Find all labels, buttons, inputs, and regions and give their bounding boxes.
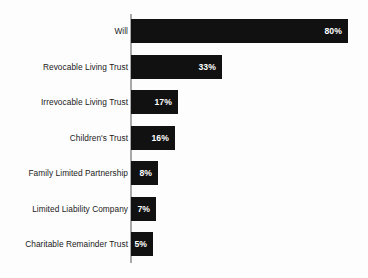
bar-row: Charitable Remainder Trust 5% <box>0 232 368 256</box>
category-label: Revocable Living Trust <box>43 55 128 79</box>
category-label: Limited Liability Company <box>32 197 128 221</box>
bar[interactable]: 8% <box>131 161 158 185</box>
bar[interactable]: 80% <box>131 19 348 43</box>
bar-value-label: 5% <box>134 232 147 256</box>
bar-row: Limited Liability Company 7% <box>0 197 368 221</box>
bar-row: Family Limited Partnership 8% <box>0 161 368 185</box>
bar[interactable]: 16% <box>131 126 175 150</box>
category-label: Family Limited Partnership <box>28 161 128 185</box>
bar-row: Revocable Living Trust 33% <box>0 55 368 79</box>
bar-value-label: 17% <box>154 90 172 114</box>
bar-row: Irrevocable Living Trust 17% <box>0 90 368 114</box>
plot-area: Will 80% Revocable Living Trust 33% Irre… <box>0 14 368 263</box>
bar-chart: Will 80% Revocable Living Trust 33% Irre… <box>0 0 368 278</box>
bar-row: Children's Trust 16% <box>0 126 368 150</box>
category-label: Charitable Remainder Trust <box>25 232 128 256</box>
category-label: Will <box>114 19 128 43</box>
bar[interactable]: 33% <box>131 55 222 79</box>
bar[interactable]: 17% <box>131 90 178 114</box>
bar-value-label: 8% <box>139 161 152 185</box>
bar[interactable]: 5% <box>131 232 153 256</box>
bar-value-label: 80% <box>324 19 342 43</box>
bar[interactable]: 7% <box>131 197 156 221</box>
bar-value-label: 16% <box>151 126 169 150</box>
bar-value-label: 7% <box>137 197 150 221</box>
bar-row: Will 80% <box>0 19 368 43</box>
category-label: Irrevocable Living Trust <box>41 90 128 114</box>
category-label: Children's Trust <box>70 126 128 150</box>
bar-value-label: 33% <box>198 55 216 79</box>
